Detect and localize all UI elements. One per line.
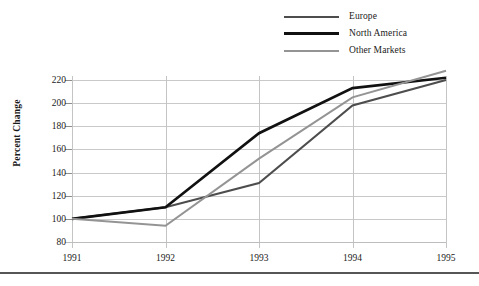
y-tick-label-160: 160 [52,144,66,154]
y-axis-title: Percent Change [12,98,22,168]
chart-canvas [0,0,479,286]
x-tick-label-1993: 1993 [250,253,269,264]
x-tick-label-1994: 1994 [343,253,362,264]
x-tick-label-1991: 1991 [63,253,82,264]
y-tick-label-180: 180 [52,121,66,131]
chart-figure: Europe North America Other Markets 22020… [0,0,479,286]
y-tick-label-100: 100 [52,214,66,224]
y-tick-label-80: 80 [57,237,67,247]
plot-area: 22020018016014012010080 Percent Change 1… [0,0,479,286]
x-tick-label-1992: 1992 [156,253,175,264]
y-tick-label-220: 220 [52,75,66,85]
bottom-rule [0,272,479,274]
y-tick-label-120: 120 [52,191,66,201]
y-axis-tick-labels: 22020018016014012010080 [36,0,66,286]
y-tick-label-140: 140 [52,168,66,178]
y-tick-label-200: 200 [52,98,66,108]
x-tick-label-1995: 1995 [437,253,456,264]
